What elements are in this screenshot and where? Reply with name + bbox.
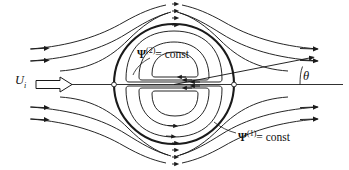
inlet-velocity-label: Ui <box>15 73 26 90</box>
near-field-streamline-lower <box>60 97 288 156</box>
internal-streamfunction-label: Ψ(2)= const <box>137 46 189 60</box>
external-streamfunction-label: Ψ(1)= const <box>238 129 290 143</box>
psi2-symbol: Ψ <box>137 48 146 60</box>
stagnation-point-front <box>112 82 117 87</box>
stagnation-point-rear <box>232 82 237 87</box>
psi2-equals: = const <box>155 48 189 60</box>
internal-contour-lower-outer <box>126 86 222 137</box>
psi2-leader-line <box>133 58 150 75</box>
psi1-superscript: (1) <box>247 129 256 138</box>
inlet-velocity-arrow <box>36 77 72 92</box>
psi2-superscript: (2) <box>146 46 155 55</box>
internal-contour-lower-inner <box>152 91 198 116</box>
arrowhead-column-bottom <box>172 143 177 164</box>
internal-contour-lower-mid <box>139 88 209 126</box>
psi1-symbol: Ψ <box>238 131 247 143</box>
near-field-streamline-upper <box>60 12 288 71</box>
flow-past-droplet-diagram <box>0 0 349 170</box>
psi1-equals: = const <box>256 131 290 143</box>
inlet-velocity-subscript: i <box>24 81 26 90</box>
angle-label: θ <box>303 69 309 84</box>
arrowhead-column-top <box>172 4 177 25</box>
inlet-velocity-symbol: U <box>15 73 24 87</box>
